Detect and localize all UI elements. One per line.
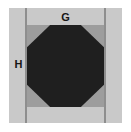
octagon-shape	[27, 25, 104, 107]
dimension-label-h: H	[12, 59, 25, 70]
octagon-dimension-diagram: G H	[0, 0, 131, 132]
right-divider-line	[104, 8, 106, 123]
dimension-label-g: G	[0, 12, 131, 23]
